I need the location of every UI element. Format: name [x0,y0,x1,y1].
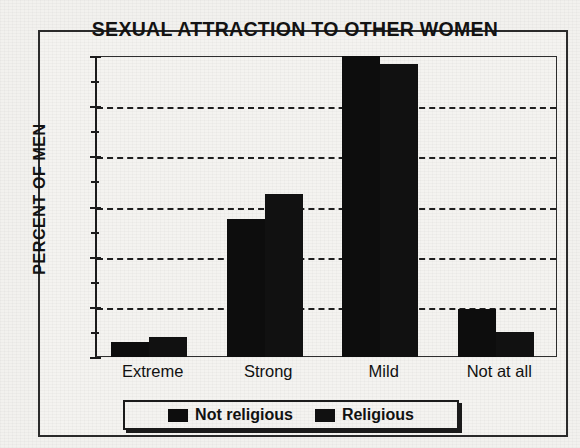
legend-swatch-not-religious [168,409,188,422]
x-tick-label-not-at-all: Not at all [442,362,558,381]
y-minor-tick-5 [91,332,99,334]
y-major-tick-40 [90,156,101,158]
chart-legend: Not religious Religious [123,400,459,430]
y-minor-tick-35 [91,181,99,183]
y-major-tick-10 [90,307,101,309]
legend-item-religious: Religious [315,406,414,424]
y-major-tick-20 [90,257,101,259]
legend-item-not-religious: Not religious [168,406,293,424]
y-minor-tick-25 [91,232,99,234]
y-minor-tick-15 [91,282,99,284]
y-major-tick-30 [90,207,101,209]
legend-label-religious: Religious [342,406,414,424]
x-tick-label-strong: Strong [211,362,327,381]
y-minor-tick-55 [91,81,99,83]
legend-swatch-religious [315,409,335,422]
y-major-tick-60 [90,56,101,58]
legend-label-not-religious: Not religious [195,406,293,424]
x-tick-label-mild: Mild [326,362,442,381]
y-major-tick-0 [90,357,101,359]
x-tick-label-extreme: Extreme [95,362,211,381]
y-major-tick-50 [90,106,101,108]
chart-page: SEXUAL ATTRACTION TO OTHER WOMEN PERCENT… [0,0,580,448]
y-minor-tick-45 [91,131,99,133]
